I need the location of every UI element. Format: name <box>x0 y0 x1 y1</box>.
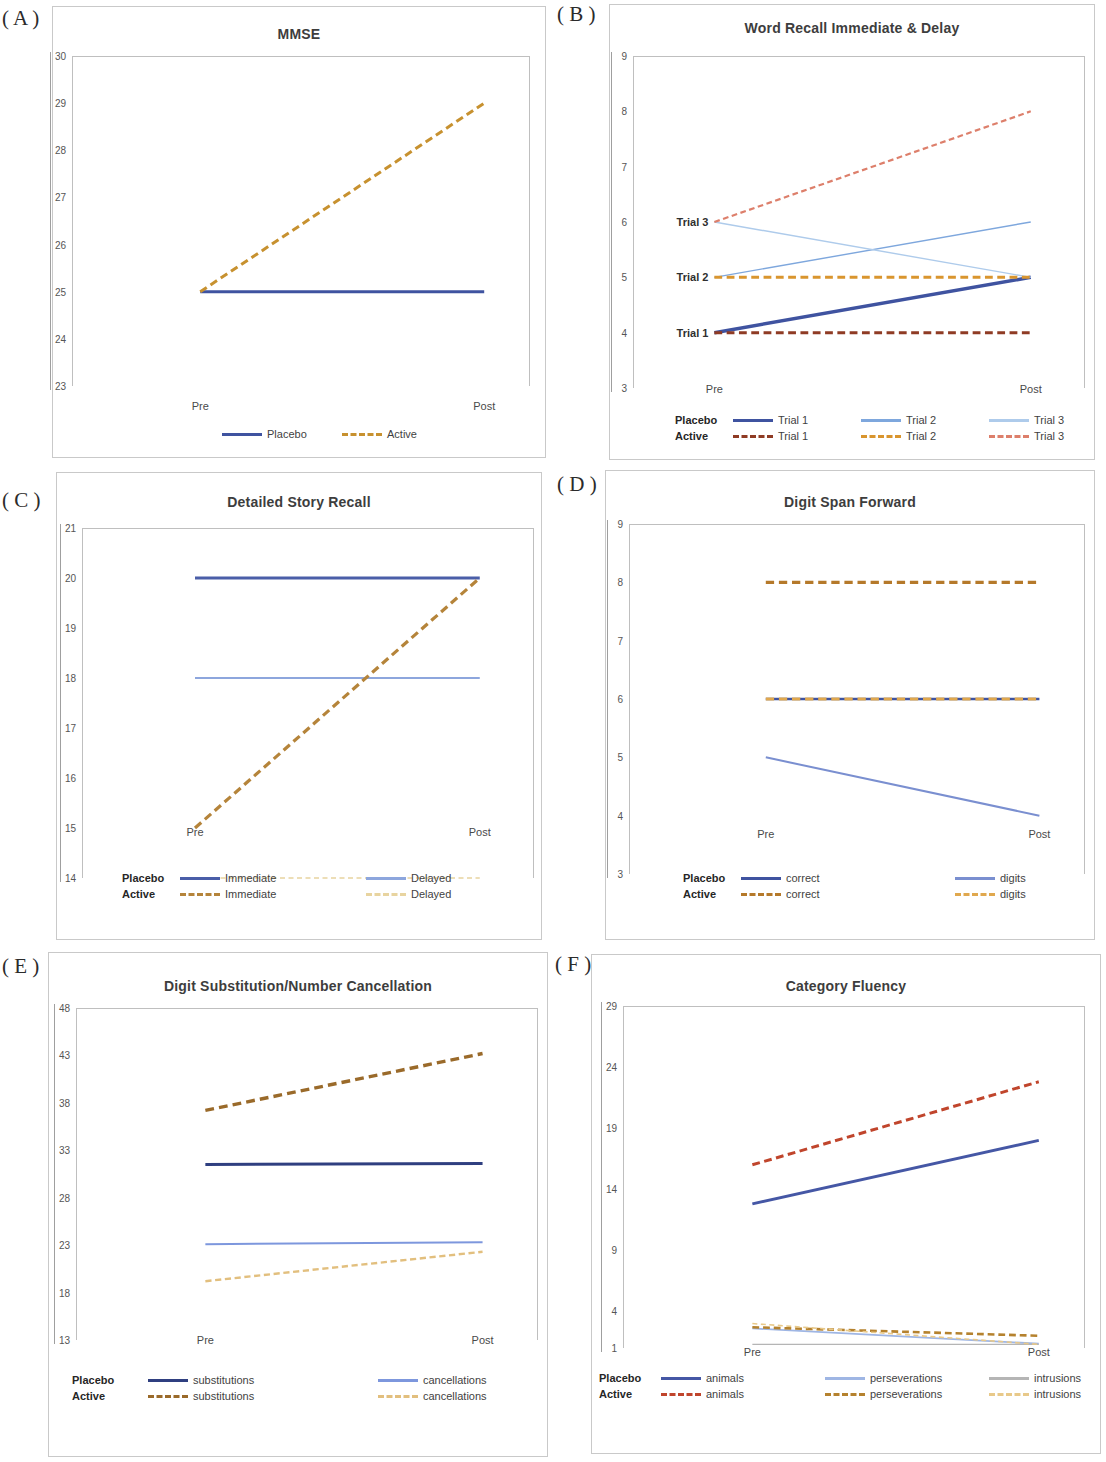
y-tick-label: 9 <box>621 51 633 62</box>
y-tick-label: 5 <box>617 752 629 763</box>
legend-item[interactable]: Placebo <box>222 428 342 440</box>
y-axis-spine <box>607 520 608 878</box>
y-tick-label: 17 <box>65 723 82 734</box>
legend-swatch-icon <box>222 433 262 436</box>
legend-item[interactable]: Immediate <box>180 872 366 884</box>
plot-area-f: 29241914941 <box>623 1006 1085 1348</box>
plot-area-e: 4843383328231813 <box>76 1008 538 1340</box>
plot-area-b: 9876543Trial 3Trial 2Trial 1 <box>633 56 1085 388</box>
legend-row: Activecorrectdigits <box>683 888 1106 900</box>
legend-item-label: perseverations <box>870 1372 942 1384</box>
legend-swatch-icon <box>342 433 382 436</box>
y-tick-label: 20 <box>65 573 82 584</box>
series-line-active-active <box>200 103 484 292</box>
legend-item[interactable]: digits <box>955 888 1106 900</box>
y-tick-label: 48 <box>59 1003 76 1014</box>
x-axis-label-pre: Pre <box>744 1346 761 1358</box>
y-tick-label: 7 <box>617 635 629 646</box>
legend-item-label: animals <box>706 1372 744 1384</box>
series-line-placebo-animals <box>752 1140 1038 1204</box>
legend-item[interactable]: Trial 1 <box>733 414 861 426</box>
y-axis-spine <box>54 1004 55 1344</box>
x-axis-label-pre: Pre <box>192 400 209 412</box>
legend-item[interactable]: Delayed <box>366 888 552 900</box>
legend-swatch-icon <box>661 1393 701 1396</box>
legend-swatch-icon <box>989 1393 1029 1396</box>
legend-item-label: digits <box>1000 872 1026 884</box>
y-tick-label: 9 <box>617 519 629 530</box>
y-tick-label: 28 <box>55 145 72 156</box>
legend-item-label: Immediate <box>225 888 276 900</box>
panel-f: ( F ) Category Fluency 29241914941PrePos… <box>553 948 1106 1462</box>
legend-row: ActiveImmediateDelayed <box>122 888 552 900</box>
legend-item-label: Placebo <box>267 428 307 440</box>
legend-swatch-icon <box>989 1377 1029 1380</box>
y-tick-label: 3 <box>621 383 633 394</box>
legend-item[interactable]: correct <box>741 872 955 884</box>
legend-swatch-icon <box>180 877 220 880</box>
legend-item[interactable]: digits <box>955 872 1106 884</box>
legend-item[interactable]: Trial 3 <box>989 414 1106 426</box>
y-tick-label: 3 <box>617 869 629 880</box>
y-tick-label: 21 <box>65 523 82 534</box>
y-tick-label: 29 <box>606 1001 623 1012</box>
panel-d: ( D ) Digit Span Forward 9876543PrePostP… <box>553 468 1106 948</box>
y-tick-label: 18 <box>65 673 82 684</box>
legend-group-label: Active <box>122 888 180 900</box>
legend-swatch-icon <box>861 435 901 438</box>
legend-item[interactable]: intrusions <box>989 1372 1106 1384</box>
legend-item-label: substitutions <box>193 1374 254 1386</box>
legend-item[interactable]: intrusions <box>989 1388 1106 1400</box>
y-tick-label: 15 <box>65 823 82 834</box>
legend-item[interactable]: substitutions <box>148 1390 378 1402</box>
legend-item[interactable]: Active <box>342 428 462 440</box>
legend-swatch-icon <box>366 893 406 896</box>
y-tick-label: 33 <box>59 1145 76 1156</box>
y-axis-spine <box>601 1002 602 1352</box>
legend-item[interactable]: correct <box>741 888 955 900</box>
legend-item[interactable]: perseverations <box>825 1372 989 1384</box>
legend-item-label: cancellations <box>423 1390 487 1402</box>
legend-item-label: Trial 3 <box>1034 430 1064 442</box>
legend-item[interactable]: animals <box>661 1388 825 1400</box>
legend-a: PlaceboActive <box>222 428 462 444</box>
legend-item[interactable]: perseverations <box>825 1388 989 1400</box>
y-tick-label: 6 <box>617 694 629 705</box>
legend-e: PlacebosubstitutionscancellationsActives… <box>72 1374 608 1406</box>
series-lines-a <box>72 56 530 386</box>
y-tick-label: 23 <box>59 1240 76 1251</box>
legend-item[interactable]: Trial 1 <box>733 430 861 442</box>
legend-row: PlaceboImmediateDelayed <box>122 872 552 884</box>
legend-swatch-icon <box>825 1393 865 1396</box>
legend-item-label: cancellations <box>423 1374 487 1386</box>
y-tick-label: 26 <box>55 239 72 250</box>
legend-item-label: Active <box>387 428 417 440</box>
plot-area-c: 2120191817161514 <box>82 528 534 878</box>
series-lines-f <box>623 1006 1085 1348</box>
series-annotation: Trial 1 <box>677 327 713 339</box>
series-line-active-substitutions <box>205 1054 482 1111</box>
legend-group-label: Active <box>599 1388 661 1400</box>
panel-f-title: Category Fluency <box>591 978 1101 994</box>
panel-b-letter: ( B ) <box>557 2 596 27</box>
legend-item[interactable]: Trial 2 <box>861 414 989 426</box>
legend-item-label: correct <box>786 888 820 900</box>
y-tick-label: 4 <box>621 327 633 338</box>
x-axis-label-pre: Pre <box>186 826 203 838</box>
y-tick-label: 4 <box>611 1306 623 1317</box>
legend-group-label: Placebo <box>683 872 741 884</box>
legend-item[interactable]: substitutions <box>148 1374 378 1386</box>
legend-swatch-icon <box>955 893 995 896</box>
y-axis-spine <box>50 52 51 390</box>
legend-item[interactable]: animals <box>661 1372 825 1384</box>
y-tick-label: 6 <box>621 217 633 228</box>
legend-item-label: digits <box>1000 888 1026 900</box>
series-line-active-cancellations <box>205 1252 482 1281</box>
legend-item[interactable]: Delayed <box>366 872 552 884</box>
panel-e: ( E ) Digit Substitution/Number Cancella… <box>0 948 560 1462</box>
legend-item[interactable]: Trial 2 <box>861 430 989 442</box>
legend-swatch-icon <box>366 877 406 880</box>
legend-item[interactable]: Trial 3 <box>989 430 1106 442</box>
series-lines-c <box>82 528 534 878</box>
legend-item[interactable]: Immediate <box>180 888 366 900</box>
